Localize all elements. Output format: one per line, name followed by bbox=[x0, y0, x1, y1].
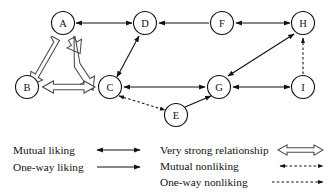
legend-item-mutual-nonliking: Mutual nonliking bbox=[160, 160, 323, 172]
legend-label-mutual-liking: Mutual liking bbox=[13, 144, 75, 156]
legend-label-one-way-liking: One-way liking bbox=[13, 161, 84, 173]
node-e[interactable]: E bbox=[165, 104, 188, 127]
edge-b-c-very-strong-relationship bbox=[43, 81, 96, 93]
legend-label-very-strong-relationship: Very strong relationship bbox=[160, 144, 269, 156]
legend-label-one-way-nonliking: One-way nonliking bbox=[160, 176, 248, 188]
node-f-label: F bbox=[219, 18, 225, 29]
node-c[interactable]: C bbox=[99, 76, 122, 99]
node-e-label: E bbox=[173, 110, 179, 121]
sociogram-figure: A B C D E F G H bbox=[0, 0, 334, 194]
node-i-label: I bbox=[301, 82, 305, 93]
node-h-label: H bbox=[299, 18, 307, 29]
node-i[interactable]: I bbox=[292, 76, 315, 99]
edge-layer bbox=[30, 23, 304, 110]
legend-sample-very-strong-relationship bbox=[278, 145, 323, 155]
node-f[interactable]: F bbox=[211, 12, 234, 35]
node-a[interactable]: A bbox=[52, 12, 75, 35]
edge-g-h-mutual-liking bbox=[228, 34, 294, 76]
node-c-label: C bbox=[106, 82, 113, 93]
legend-item-one-way-nonliking: One-way nonliking bbox=[160, 176, 323, 188]
legend-item-very-strong-relationship: Very strong relationship bbox=[160, 144, 323, 156]
edge-a-c-very-strong-relationship bbox=[67, 37, 95, 91]
edge-c-e-mutual-nonliking bbox=[119, 96, 165, 110]
edge-c-d-mutual-liking bbox=[117, 36, 139, 77]
legend-item-one-way-liking: One-way liking bbox=[13, 161, 140, 173]
legend-item-mutual-liking: Mutual liking bbox=[13, 144, 140, 156]
node-g-label: G bbox=[215, 82, 223, 93]
node-a-label: A bbox=[59, 18, 67, 29]
legend: Mutual liking One-way liking Very strong… bbox=[13, 144, 323, 188]
node-layer: A B C D E F G H bbox=[16, 12, 315, 127]
legend-label-mutual-nonliking: Mutual nonliking bbox=[160, 160, 239, 172]
node-b[interactable]: B bbox=[16, 76, 39, 99]
node-g[interactable]: G bbox=[208, 76, 231, 99]
node-b-label: B bbox=[23, 82, 30, 93]
node-d[interactable]: D bbox=[134, 12, 157, 35]
node-h[interactable]: H bbox=[292, 12, 315, 35]
edge-e-g-one-way-liking bbox=[185, 96, 211, 107]
node-d-label: D bbox=[141, 18, 149, 29]
